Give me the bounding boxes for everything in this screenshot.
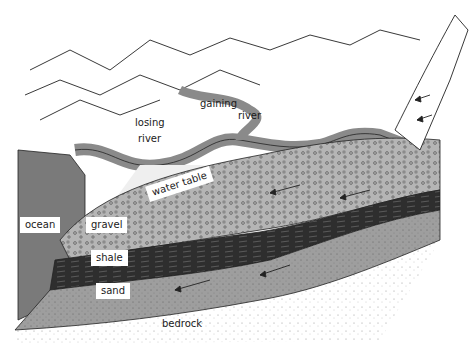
river-text: river [238,110,261,121]
gaining-text: gaining [200,98,237,109]
sand-label: sand [96,283,130,299]
shale-label: shale [91,250,128,266]
river-text-2: river [138,133,161,144]
losing-river-label-2: river [138,133,161,144]
losing-river-label: losing [135,117,165,128]
gravel-label: gravel [86,217,127,233]
hand-illustration [395,15,468,150]
gaining-river-label-2: river [238,110,261,121]
ocean-label: ocean [20,217,60,233]
groundwater-diagram [0,0,473,355]
bedrock-label: bedrock [162,318,202,329]
losing-text: losing [135,117,165,128]
gaining-river-label: gaining [200,98,237,109]
